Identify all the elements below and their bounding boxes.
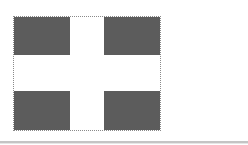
- bottom-right-dark-quadrant: [104, 91, 160, 130]
- top-right-dark-quadrant: [104, 17, 160, 55]
- cross-flag-figure: Flag-like figure: white cross on dark gr…: [13, 16, 161, 131]
- bottom-left-dark-quadrant: [14, 91, 70, 130]
- canvas: Flag-like figure: white cross on dark gr…: [0, 0, 248, 145]
- top-left-dark-quadrant: [14, 17, 70, 55]
- horizontal-divider: [0, 141, 248, 144]
